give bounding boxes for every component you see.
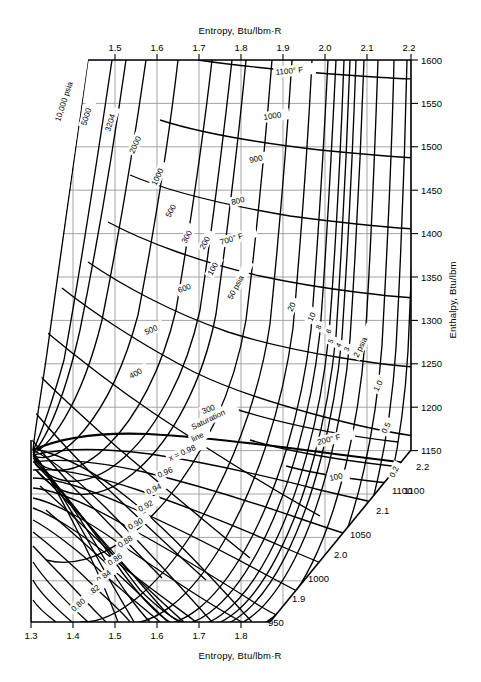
top-tick-7: 2.1	[360, 42, 373, 53]
right-tick-1200: 1200	[421, 402, 442, 413]
diag-enthalpy-1050: 1050	[350, 529, 371, 540]
diag-entropy-2-2: 2.2	[416, 461, 429, 472]
diag-enthalpy-1100: 1100	[392, 485, 412, 496]
right-tick-1550: 1550	[421, 98, 442, 109]
diag-enthalpy-1000: 1000	[308, 573, 329, 584]
right-tick-1250: 1250	[421, 358, 442, 369]
bottom-tick-2: 1.4	[66, 630, 79, 641]
diag-entropy-1-9: 1.9	[292, 593, 305, 604]
right-axis-title: Enthalpy, Btu/lbm	[447, 261, 458, 338]
top-axis-title: Entropy, Btu/lbm·R	[198, 25, 281, 36]
right-tick-1500: 1500	[421, 141, 442, 152]
right-tick-1300: 1300	[421, 315, 442, 326]
bottom-tick-3: 1.5	[108, 630, 121, 641]
right-tick-1350: 1350	[421, 272, 442, 283]
right-tick-1400: 1400	[421, 228, 442, 239]
diag-entropy-2-1: 2.1	[376, 505, 389, 516]
right-tick-1150: 1150	[421, 445, 441, 456]
bottom-tick-5: 1.7	[192, 630, 205, 641]
top-tick-5: 1.9	[276, 42, 289, 53]
bottom-tick-1: 1.3	[24, 630, 37, 641]
diag-enthalpy-950: 950	[268, 617, 284, 628]
bottom-tick-6: 1.8	[234, 630, 247, 641]
top-tick-8: 2.2	[402, 42, 415, 53]
bottom-axis-title: Entropy, Btu/lbm·R	[198, 650, 281, 661]
top-tick-4: 1.8	[234, 42, 247, 53]
diag-entropy-2-0: 2.0	[334, 549, 347, 560]
bottom-tick-4: 1.6	[150, 630, 163, 641]
top-tick-2: 1.6	[150, 42, 163, 53]
mollier-diagram: Entropy, Btu/lbm·R	[0, 0, 481, 682]
top-tick-6: 2.0	[318, 42, 331, 53]
right-tick-1600: 1600	[421, 55, 442, 66]
right-tick-1450: 1450	[421, 185, 442, 196]
top-tick-3: 1.7	[192, 42, 205, 53]
top-tick-1: 1.5	[108, 42, 121, 53]
